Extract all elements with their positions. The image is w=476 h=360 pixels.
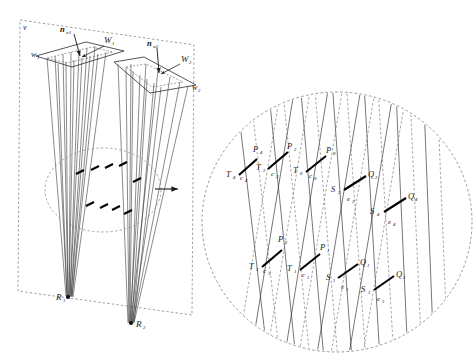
label-patch-w1: w 1 <box>31 50 39 60</box>
label-s4: S4 <box>370 206 380 217</box>
label-p2: P2 <box>286 141 297 152</box>
label-plane-w2: W 2 <box>181 54 192 65</box>
svg-text:T: T <box>249 261 255 271</box>
label-r2: R 2 <box>135 319 146 330</box>
ray-bundle-w2 <box>118 64 188 323</box>
svg-text:2: 2 <box>189 60 192 65</box>
label-c0: c0 <box>309 172 317 181</box>
detail-c-segments <box>239 152 326 270</box>
svg-text:w1: w1 <box>66 30 71 35</box>
label-c2: c2 <box>271 170 279 179</box>
svg-text:Q: Q <box>360 257 366 267</box>
label-p1: P1 <box>319 242 329 253</box>
label-s3: S3 <box>361 284 371 295</box>
svg-text:R: R <box>135 319 142 329</box>
svg-text:T: T <box>293 165 299 175</box>
svg-text:2: 2 <box>338 190 341 195</box>
svg-text:0: 0 <box>314 176 317 181</box>
w2-aperture <box>126 64 183 87</box>
svg-text:1: 1 <box>294 269 296 274</box>
svg-text:4: 4 <box>260 150 263 155</box>
label-t3: T3 <box>249 261 259 272</box>
detail-panel: T4 c4 P4 T2 c2 P2 T0 c0 P0 T3 c3 P3 T1 c… <box>202 78 472 360</box>
label-r1: R 1 <box>55 292 65 303</box>
svg-text:S: S <box>361 284 366 294</box>
svg-text:c: c <box>263 267 267 275</box>
svg-text:e: e <box>341 283 344 291</box>
label-p0: P0 <box>325 145 336 156</box>
label-plane-w1: W 1 <box>104 35 114 46</box>
label-t1: T1 <box>287 263 296 274</box>
label-q4: Q4 <box>408 191 418 202</box>
svg-text:1: 1 <box>367 263 369 268</box>
label-p4: P4 <box>252 144 263 155</box>
detail-region-ellipse <box>45 148 161 232</box>
label-t4: T4 <box>226 169 236 180</box>
svg-text:3: 3 <box>368 290 371 295</box>
svg-text:Q: Q <box>368 169 374 179</box>
svg-text:1: 1 <box>112 41 114 46</box>
svg-text:S: S <box>370 206 375 216</box>
label-t0: T0 <box>293 165 303 176</box>
svg-text:P: P <box>252 144 258 154</box>
label-c4: c4 <box>240 174 248 183</box>
svg-text:S: S <box>331 184 336 194</box>
point-r2 <box>129 321 133 325</box>
svg-text:4: 4 <box>415 197 418 202</box>
svg-text:P: P <box>325 145 331 155</box>
svg-text:P: P <box>286 141 292 151</box>
svg-text:0: 0 <box>300 171 303 176</box>
detail-labels-e: S2 e2 Q2 S4 e4 Q4 S1 e1 Q1 S3 e3 Q3 <box>326 169 418 304</box>
svg-text:1: 1 <box>333 278 335 283</box>
svg-text:R: R <box>55 292 62 302</box>
svg-text:2: 2 <box>198 88 201 93</box>
svg-text:3: 3 <box>285 240 288 245</box>
frame-label-v: v <box>23 23 27 32</box>
svg-text:1: 1 <box>307 275 309 280</box>
svg-text:e: e <box>347 195 350 203</box>
svg-text:4: 4 <box>233 175 236 180</box>
label-q2: Q2 <box>368 169 378 180</box>
label-q1: Q1 <box>360 257 369 268</box>
point-r1 <box>66 295 70 299</box>
label-e2: e2 <box>347 195 355 204</box>
diagram-svg: v n w1 W 1 w 1 n w2 W 2 w 2 <box>0 0 476 360</box>
svg-text:n: n <box>60 24 65 34</box>
svg-text:T: T <box>226 169 232 179</box>
svg-text:4: 4 <box>393 222 396 227</box>
svg-text:c: c <box>302 271 306 279</box>
svg-text:0: 0 <box>333 151 336 156</box>
svg-text:2: 2 <box>276 174 279 179</box>
svg-text:4: 4 <box>377 212 380 217</box>
svg-text:1: 1 <box>327 248 329 253</box>
overview-panel: v n w1 W 1 w 1 n w2 W 2 w 2 <box>18 20 201 330</box>
label-e1: e1 <box>341 283 348 292</box>
svg-text:4: 4 <box>245 178 248 183</box>
svg-text:Q: Q <box>396 269 402 279</box>
svg-text:T: T <box>256 162 262 172</box>
svg-text:2: 2 <box>375 175 378 180</box>
svg-text:T: T <box>287 263 293 273</box>
svg-text:w2: w2 <box>153 44 159 49</box>
svg-text:P: P <box>277 234 283 244</box>
svg-text:Q: Q <box>408 191 414 201</box>
svg-text:P: P <box>319 242 325 252</box>
svg-text:e: e <box>388 218 391 226</box>
svg-text:1: 1 <box>63 298 65 303</box>
svg-text:2: 2 <box>263 168 266 173</box>
svg-text:3: 3 <box>256 267 259 272</box>
svg-text:c: c <box>271 170 275 178</box>
svg-text:1: 1 <box>37 55 39 60</box>
label-patch-w2: w 2 <box>192 83 201 93</box>
label-e3: e3 <box>377 295 385 304</box>
label-c1: c1 <box>302 271 309 280</box>
label-t2: T2 <box>256 162 266 173</box>
svg-text:e: e <box>377 295 380 303</box>
svg-text:1: 1 <box>346 287 348 292</box>
svg-text:2: 2 <box>294 147 297 152</box>
label-e4: e4 <box>388 218 396 227</box>
svg-text:3: 3 <box>403 275 406 280</box>
label-normal-w1: n w1 <box>60 24 71 35</box>
svg-text:c: c <box>309 172 313 180</box>
detail-solid-rays <box>236 80 434 360</box>
